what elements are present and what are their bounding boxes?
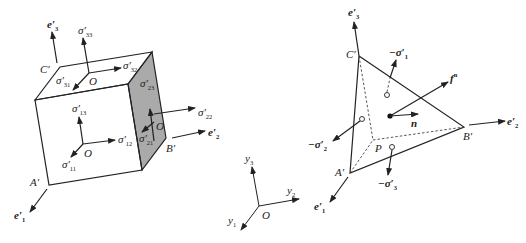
normal-n-label: n	[411, 117, 417, 129]
stress-s33-label: σ′33	[78, 24, 92, 38]
reference-frame: O y3 y2 y1	[227, 152, 299, 230]
axis-e3-label: e′3	[47, 18, 59, 32]
axis-e2-label: e′2	[208, 126, 219, 140]
stress-s31-label: σ′31	[56, 74, 70, 88]
tet-vertex-c-label: C′	[346, 48, 356, 60]
cauchy-tetrahedron: e′3 e′2 e′1 C′ A′ B′ P −σ′1 −σ′2 −σ′3 fn…	[308, 6, 518, 214]
tet-vertex-p-label: P	[374, 142, 382, 154]
stress-s11-label: σ′11	[62, 158, 76, 172]
axis-e1-label: e′1	[14, 209, 25, 223]
stress-cube: e′3 e′2 e′1 C′ A′ B′ O σ′33 σ′32 σ′31 O …	[14, 18, 219, 223]
vertex-b-label: B′	[166, 142, 176, 154]
tet-axis-e1-label: e′1	[314, 200, 325, 214]
stress-s12-label: σ′12	[118, 133, 132, 147]
tet-axis-e2-label: e′2	[507, 115, 518, 129]
diagram-canvas: e′3 e′2 e′1 C′ A′ B′ O σ′33 σ′32 σ′31 O …	[0, 0, 526, 243]
axis-y3-label: y3	[244, 152, 253, 166]
frame-origin-label: O	[262, 209, 270, 221]
axis-y2-label: y2	[286, 184, 295, 198]
force-fn-label: fn	[450, 71, 458, 84]
front-face	[35, 84, 142, 185]
origin-right-label: O	[156, 120, 164, 132]
stress-s22-label: σ′22	[198, 106, 212, 120]
stress-s13-label: σ′13	[72, 102, 86, 116]
traction-ms1-label: −σ′1	[389, 46, 408, 60]
axis-y1-label: y1	[227, 214, 236, 228]
tet-axis-e3-label: e′3	[348, 6, 360, 20]
traction-ms3-label: −σ′3	[378, 177, 398, 191]
vertex-c-label: C′	[40, 63, 50, 75]
origin-top-label: O	[89, 75, 97, 87]
tet-vertex-b-label: B′	[463, 130, 473, 142]
origin-front-label: O	[84, 147, 92, 159]
stress-s32-label: σ′32	[123, 59, 137, 73]
vertex-a-label: A′	[29, 176, 40, 188]
traction-ms2-label: −σ′2	[308, 138, 327, 152]
tet-vertex-a-label: A′	[334, 166, 345, 178]
